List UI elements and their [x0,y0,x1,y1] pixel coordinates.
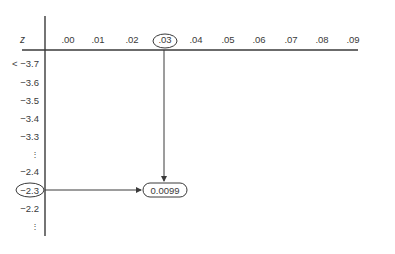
row-label-highlighted: −2.3 [20,185,39,196]
column-header-highlighted: .03 [158,34,171,45]
highlighted-value: 0.0099 [150,185,179,196]
row-ellipsis: ⋮ [31,150,39,159]
column-header: .02 [125,34,138,45]
column-header: .00 [61,34,74,45]
column-header: .01 [91,34,104,45]
row-label: −2.4 [20,166,39,177]
column-header: .09 [346,34,359,45]
column-header: .08 [315,34,328,45]
column-header: .07 [284,34,297,45]
column-header: .05 [221,34,234,45]
row-label: −3.6 [20,77,39,88]
row-label: −3.4 [20,113,39,124]
row-ellipsis: ⋮ [31,222,39,231]
row-label: −3.5 [20,95,39,106]
row-label: −2.2 [20,203,39,214]
column-header: .04 [189,34,202,45]
row-label: < −3.7 [12,58,39,69]
column-header: .06 [252,34,265,45]
row-label: −3.3 [20,131,39,142]
z-corner-label: z [20,34,25,45]
